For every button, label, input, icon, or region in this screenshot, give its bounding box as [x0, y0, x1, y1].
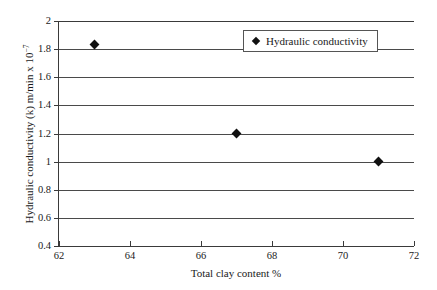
- y-tick-label-1: 1: [46, 156, 51, 167]
- y-axis-title: Hydraulic conductivity (k) m/min x 10−7: [23, 45, 36, 224]
- y-tick-1-8: [54, 49, 59, 50]
- x-tick-label-72: 72: [409, 251, 420, 262]
- chart-legend: Hydraulic conductivity: [243, 30, 378, 52]
- y-tick-0-6: [54, 218, 59, 219]
- y-tick-label-1-6: 1.6: [38, 72, 51, 83]
- y-tick-1-2: [54, 134, 59, 135]
- y-tick-1: [54, 162, 59, 163]
- y-tick-label-0-8: 0.8: [38, 185, 51, 196]
- y-tick-2: [54, 21, 59, 22]
- gridline-1-4: [59, 105, 414, 106]
- x-tick-70: [343, 241, 344, 246]
- diamond-marker-icon: [252, 37, 260, 45]
- data-point-marker[interactable]: [374, 157, 384, 167]
- x-tick-68: [272, 241, 273, 246]
- data-point-marker[interactable]: [232, 129, 242, 139]
- gridline-1-6: [59, 77, 414, 78]
- x-tick-label-66: 66: [196, 251, 207, 262]
- x-tick-label-70: 70: [338, 251, 349, 262]
- x-tick-72: [414, 241, 415, 246]
- y-tick-label-0-4: 0.4: [38, 241, 51, 252]
- gridline-2: [59, 21, 414, 22]
- legend-item-label: Hydraulic conductivity: [266, 36, 368, 47]
- y-tick-label-1-4: 1.4: [38, 100, 51, 111]
- x-tick-64: [130, 241, 131, 246]
- y-tick-label-1-2: 1.2: [38, 128, 51, 139]
- plot-area: 2 1.8 1.6 1.4 1.2 1 0.8 0.6 0.4 62 64 66: [58, 21, 414, 247]
- y-axis-title-text: Hydraulic conductivity (k) m/min x 10: [23, 53, 35, 224]
- y-tick-label-0-6: 0.6: [38, 213, 51, 224]
- x-tick-label-62: 62: [54, 251, 65, 262]
- x-tick-label-64: 64: [125, 251, 136, 262]
- y-tick-1-6: [54, 77, 59, 78]
- gridline-1: [59, 162, 414, 163]
- x-tick-66: [201, 241, 202, 246]
- y-tick-label-2: 2: [46, 16, 51, 27]
- y-tick-0-4: [54, 246, 59, 247]
- chart-figure: Hydraulic conductivity (k) m/min x 10−7 …: [0, 0, 437, 290]
- gridline-0-6: [59, 218, 414, 219]
- x-tick-label-68: 68: [267, 251, 278, 262]
- gridline-0-8: [59, 190, 414, 191]
- x-tick-62: [59, 241, 60, 246]
- y-tick-label-1-8: 1.8: [38, 44, 51, 55]
- y-axis-title-container: Hydraulic conductivity (k) m/min x 10−7: [20, 21, 38, 247]
- y-tick-1-4: [54, 105, 59, 106]
- x-axis-title: Total clay content %: [58, 268, 414, 279]
- y-tick-0-8: [54, 190, 59, 191]
- y-axis-title-exponent: −7: [22, 45, 31, 53]
